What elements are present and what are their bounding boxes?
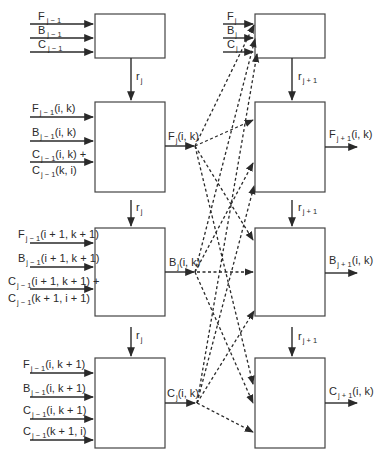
left-box-C (95, 358, 165, 448)
label-C-in-2: Cj − 1(i, k + 1) (23, 404, 86, 419)
label-right-top-in-1: Bj (227, 24, 237, 39)
dash-F-to-right-F (195, 120, 253, 146)
label-right-r1: rj + 1 (298, 201, 317, 216)
dash-F-to-top-F (195, 25, 254, 146)
label-left-r2: rj (136, 329, 143, 344)
label-right-top-in-0: Fj (227, 10, 237, 25)
dash-B-to-right-C (195, 272, 253, 403)
left-box-B (95, 228, 165, 316)
label-right-B-out: Bj + 1(i, k) (329, 254, 373, 269)
label-B-out: Bj(i, k) (169, 256, 200, 271)
label-right-r2: rj + 1 (298, 330, 317, 345)
label-right-F-out: Fj + 1(i, k) (329, 128, 373, 143)
label-F-out: Fj(i, k) (168, 130, 199, 145)
label-right-r0: rj + 1 (298, 70, 317, 85)
right-box-F (255, 102, 325, 192)
dashed-connections (195, 25, 257, 432)
label-B-in-2: Cj − 1(i + 1, k + 1) + (8, 275, 100, 290)
label-B-in-3: Cj − 1(k + 1, i + 1) (8, 292, 90, 307)
label-left-top-in-2: Cj − 1 (38, 38, 62, 53)
label-right-C-out: Cj + 1(i, k) (329, 385, 374, 400)
label-B-in-1: Bj − 1(i + 1, k + 1) (18, 252, 99, 267)
right-box-B (255, 228, 325, 316)
label-F-in-3: Cj − 1(k, i) (32, 164, 77, 179)
label-C-in-3: Cj − 1(k + 1, i) (23, 425, 86, 440)
dash-F-to-right-C (195, 146, 253, 384)
right-box-C (255, 358, 325, 448)
dash-B-to-top-B (195, 39, 255, 272)
dash-C-to-right-C (197, 403, 253, 432)
label-left-r1: rj (136, 201, 143, 216)
label-F-in-1: Bj − 1(i, k) (32, 126, 76, 141)
label-right-top-in-2: Cj (227, 38, 238, 53)
label-B-in-0: Fj − 1(i + 1, k + 1) (18, 228, 99, 243)
label-left-r0: rj (136, 70, 143, 85)
label-C-in-1: Bj − 1(i, k + 1) (23, 382, 86, 397)
left-box-F (95, 102, 165, 192)
label-left-top-in-0: Fj − 1 (38, 10, 61, 25)
label-left-top-in-1: Bj − 1 (38, 24, 62, 39)
dataflow-diagram: Fj − 1 Bj − 1 Cj − 1 rj Fj − 1(i, k) Bj … (0, 0, 382, 459)
left-top-box (95, 14, 165, 58)
label-F-in-2: Cj − 1(i, k) + (32, 148, 86, 163)
right-top-box (255, 14, 325, 58)
label-C-in-0: Fj − 1(i, k + 1) (23, 358, 85, 373)
label-F-in-0: Fj − 1(i, k) (32, 102, 76, 117)
label-C-out: Cj(i, k) (167, 387, 199, 402)
